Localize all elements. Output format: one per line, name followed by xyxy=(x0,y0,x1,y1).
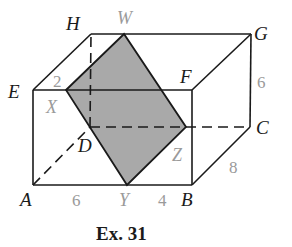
label-d: D xyxy=(77,135,92,156)
label-a: A xyxy=(18,189,32,210)
box-cross-section-diagram: H W G E F X D Z C A Y B 2 6 4 8 6 Ex. 31 xyxy=(0,0,292,247)
label-x: X xyxy=(45,97,58,117)
dim-yb: 4 xyxy=(158,191,167,210)
cross-section-wxyz xyxy=(66,34,186,185)
label-y: Y xyxy=(119,190,131,210)
label-b: B xyxy=(181,189,193,210)
dim-bc: 8 xyxy=(229,158,238,177)
dim-ex: 2 xyxy=(53,72,62,91)
dim-ay: 6 xyxy=(72,191,81,210)
label-c: C xyxy=(256,117,269,138)
label-z: Z xyxy=(172,145,183,165)
edge-fg xyxy=(192,34,251,90)
edge-gc xyxy=(250,34,251,127)
label-h: H xyxy=(65,13,81,34)
label-w: W xyxy=(117,8,134,28)
edge-bc xyxy=(192,127,250,185)
label-e: E xyxy=(7,81,20,102)
dim-cg: 6 xyxy=(257,73,266,92)
label-f: F xyxy=(179,66,192,87)
label-g: G xyxy=(254,23,268,44)
figure-caption: Ex. 31 xyxy=(96,223,147,244)
